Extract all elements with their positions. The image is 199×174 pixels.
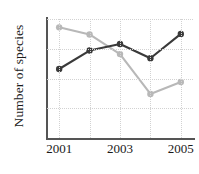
x-tick-label: 2003	[92, 142, 148, 155]
y-axis-title: Number of species	[11, 11, 27, 141]
plot-area	[47, 19, 193, 138]
gridline-vertical	[120, 19, 121, 138]
x-tick-label: 2005	[153, 142, 199, 155]
gridline-vertical	[150, 19, 151, 138]
line-chart: Number of species 0101520200120032005	[0, 0, 199, 174]
x-axis-line	[46, 138, 195, 140]
x-tick-label: 2001	[31, 142, 87, 155]
gridline-vertical	[59, 19, 60, 138]
gridline-vertical	[90, 19, 91, 138]
gridline-vertical	[181, 19, 182, 138]
